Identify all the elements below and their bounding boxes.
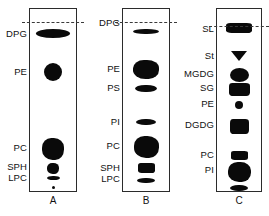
lane-a-caption-wrap: A	[29, 0, 77, 20]
label-b-ps: PS	[107, 83, 120, 93]
label-a-pc: PC	[14, 143, 27, 153]
spot-a-pe	[44, 63, 62, 81]
spot-b-dpg	[133, 29, 159, 34]
lane-b-caption: B	[122, 195, 170, 206]
spot-b-ps	[135, 85, 157, 92]
spot-c-st	[231, 51, 247, 61]
lane-c	[216, 8, 262, 192]
label-c-pe: PE	[201, 99, 214, 109]
lane-a-solvent-front	[22, 22, 84, 23]
spot-b-pc	[134, 136, 159, 158]
label-a-sph: SPH	[7, 162, 27, 172]
spot-c-mgdg	[230, 68, 249, 82]
spot-c-front-bar	[230, 185, 248, 191]
tlc-figure: A B C DPGPEPCSPHLPCDPGPEPSPIPCSPHLPCSLSt…	[0, 0, 269, 216]
lane-c-solvent-front	[209, 26, 269, 27]
spot-c-sg	[229, 83, 250, 96]
label-a-pe: PE	[14, 67, 27, 77]
lane-a	[29, 8, 77, 192]
label-b-pc: PC	[107, 141, 120, 151]
lane-c-caption-wrap: C	[216, 0, 262, 20]
spot-b-sph	[138, 163, 155, 173]
label-b-dpg: DPG	[99, 18, 120, 28]
lane-a-caption: A	[29, 195, 77, 206]
label-b-pe: PE	[107, 64, 120, 74]
lane-b	[122, 8, 170, 192]
label-b-sph: SPH	[100, 163, 120, 173]
spot-a-lpc	[47, 176, 60, 180]
lane-c-caption: C	[216, 195, 262, 206]
label-c-pc: PC	[201, 150, 214, 160]
label-c-sg: SG	[200, 83, 214, 93]
spot-c-pc	[231, 151, 248, 160]
spot-a-pc	[42, 138, 64, 160]
label-b-pi: PI	[111, 117, 120, 127]
spot-a-sph	[47, 163, 59, 174]
label-c-pi: PI	[205, 165, 214, 175]
spot-c-pe	[235, 101, 243, 109]
label-a-dpg: DPG	[6, 29, 27, 39]
spot-a-origin-dot	[52, 186, 55, 189]
label-c-dgdg: DGDG	[185, 120, 214, 130]
spot-c-pi	[228, 162, 251, 182]
spot-c-sl	[226, 23, 252, 33]
spot-b-pi	[136, 119, 156, 125]
spot-a-dpg	[36, 29, 70, 38]
spot-b-lpc	[137, 178, 155, 183]
spot-c-dgdg	[230, 119, 249, 134]
label-b-lpc: LPC	[101, 174, 120, 184]
label-c-mgdg: MGDG	[184, 69, 214, 79]
lane-b-caption-wrap: B	[122, 0, 170, 20]
spot-b-pe	[133, 60, 159, 79]
lane-b-solvent-front	[115, 22, 177, 23]
label-c-st: St	[205, 51, 214, 61]
label-a-lpc: LPC	[8, 173, 27, 183]
